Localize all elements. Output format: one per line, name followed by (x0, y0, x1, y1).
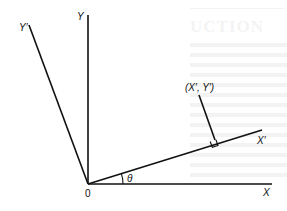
point-label: (X′, Y′) (185, 82, 214, 93)
y-axis-label: Y (77, 11, 85, 22)
diagram-svg: Y Y′ (X′, Y′) X′ θ 0 X (0, 0, 287, 211)
origin-label: 0 (85, 188, 91, 199)
rotated-axes-diagram: UCTION Y Y′ (X′, Y′) X′ θ (0, 0, 287, 211)
x-prime-axis-label: X′ (256, 135, 267, 146)
x-prime-axis (88, 130, 262, 184)
y-prime-axis-label: Y′ (19, 22, 29, 33)
y-prime-axis (29, 25, 88, 184)
theta-label: θ (127, 173, 133, 184)
angle-arc (121, 174, 123, 184)
perpendicular-line (199, 95, 215, 140)
right-angle-marker (210, 140, 218, 148)
x-axis-label: X (262, 187, 270, 198)
